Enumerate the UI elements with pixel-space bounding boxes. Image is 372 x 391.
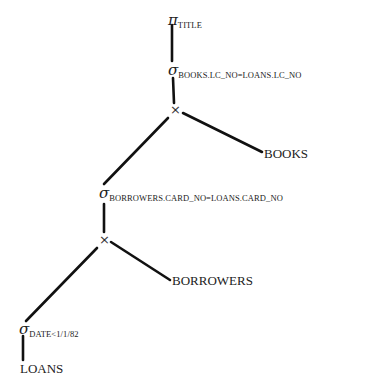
- pi-symbol: π: [168, 11, 178, 29]
- select-date-condition: DATE<1/1/82: [29, 329, 78, 339]
- select-books-node: σBOOKS.LC_NO=LOANS.LC_NO: [168, 62, 302, 78]
- sigma-symbol: σ: [19, 320, 29, 338]
- edge-product-select-borrowers: [104, 118, 168, 184]
- edge-product-select-date: [26, 248, 97, 321]
- select-borrowers-condition: BORROWERS.CARD_NO=LOANS.CARD_NO: [109, 193, 283, 203]
- relation-books: BOOKS: [264, 147, 308, 160]
- select-borrowers-node: σBORROWERS.CARD_NO=LOANS.CARD_NO: [99, 185, 283, 201]
- select-date-node: σDATE<1/1/82: [19, 321, 79, 337]
- relation-loans: LOANS: [20, 362, 63, 375]
- edge-product-books: [183, 113, 262, 152]
- edge-product-borrowers: [111, 242, 170, 280]
- cross-product-bottom: ×: [99, 233, 110, 246]
- projection-attribute: TITLE: [178, 20, 202, 30]
- select-books-condition: BOOKS.LC_NO=LOANS.LC_NO: [178, 70, 301, 80]
- edge-select-books-product: [173, 78, 174, 103]
- sigma-symbol: σ: [168, 61, 178, 79]
- projection-node: πTITLE: [168, 12, 202, 28]
- relation-borrowers: BORROWERS: [172, 274, 253, 287]
- sigma-symbol: σ: [99, 184, 109, 202]
- cross-product-top: ×: [170, 103, 181, 116]
